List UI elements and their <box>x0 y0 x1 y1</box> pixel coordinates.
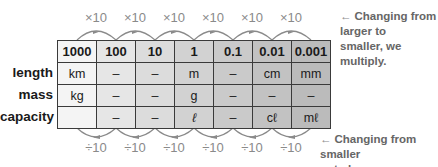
multiply-note: ←Changing from larger to smaller, we mul… <box>340 9 438 69</box>
place-value-cell: 1000 <box>58 41 97 63</box>
unit-cell: cm <box>253 63 292 85</box>
unit-cell: – <box>214 107 253 129</box>
left-arrow-icon: ← <box>340 10 352 22</box>
unit-cell: – <box>97 107 136 129</box>
divide-label: ÷10 <box>232 140 272 155</box>
divide-note: ←Changing from smaller to larger, we div… <box>320 132 438 167</box>
unit-cell: cℓ <box>253 107 292 129</box>
unit-cell: – <box>97 63 136 85</box>
unit-cell: – <box>136 85 175 107</box>
unit-cell: – <box>97 85 136 107</box>
unit-cell <box>58 107 97 129</box>
divide-label: ÷10 <box>193 140 233 155</box>
divide-arrowheads <box>93 135 295 139</box>
multiply-label: ×10 <box>271 10 311 25</box>
unit-cell: – <box>214 85 253 107</box>
place-value-cell: 10 <box>136 41 175 63</box>
multiply-label: ×10 <box>232 10 272 25</box>
multiply-label: ×10 <box>76 10 116 25</box>
divide-label: ÷10 <box>115 140 155 155</box>
unit-cell: – <box>136 107 175 129</box>
divide-arcs <box>77 128 311 137</box>
unit-cell: – <box>136 63 175 85</box>
place-value-cell: 1 <box>175 41 214 63</box>
place-value-row: 1000 100 10 1 0.1 0.01 0.001 <box>58 41 331 63</box>
row-label-capacity: capacity <box>0 109 53 124</box>
unit-cell: m <box>175 63 214 85</box>
multiply-label: ×10 <box>154 10 194 25</box>
divide-label: ÷10 <box>154 140 194 155</box>
place-value-cell: 0.01 <box>253 41 292 63</box>
table-row-length: km – – m – cm mm <box>58 63 331 85</box>
left-arrow-icon: ← <box>320 133 332 145</box>
table-row-mass: kg – – g – – – <box>58 85 331 107</box>
row-label-mass: mass <box>0 87 53 102</box>
multiply-arrowheads <box>93 31 295 34</box>
multiply-label: ×10 <box>115 10 155 25</box>
table-row-capacity: – – ℓ – cℓ mℓ <box>58 107 331 129</box>
unit-cell: ℓ <box>175 107 214 129</box>
unit-cell: – <box>292 85 331 107</box>
unit-cell: kg <box>58 85 97 107</box>
place-value-cell: 0.001 <box>292 41 331 63</box>
divide-label: ÷10 <box>271 140 311 155</box>
multiply-arcs <box>77 31 311 40</box>
units-table: 1000 100 10 1 0.1 0.01 0.001 km – – m – … <box>57 40 331 129</box>
multiply-label: ×10 <box>193 10 233 25</box>
divide-label: ÷10 <box>76 140 116 155</box>
unit-cell: – <box>214 63 253 85</box>
unit-cell: g <box>175 85 214 107</box>
unit-cell: – <box>253 85 292 107</box>
unit-cell: mm <box>292 63 331 85</box>
unit-cell: km <box>58 63 97 85</box>
place-value-cell: 100 <box>97 41 136 63</box>
place-value-cell: 0.1 <box>214 41 253 63</box>
row-label-length: length <box>0 65 53 80</box>
unit-cell: mℓ <box>292 107 331 129</box>
